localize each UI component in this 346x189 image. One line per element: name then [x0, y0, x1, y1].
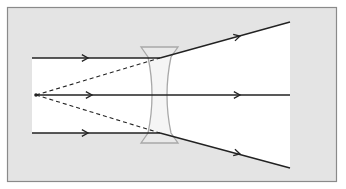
ray-diagram-canvas: [0, 0, 346, 189]
ray-diagram-figure: [0, 0, 346, 189]
focal-point: [34, 93, 38, 97]
